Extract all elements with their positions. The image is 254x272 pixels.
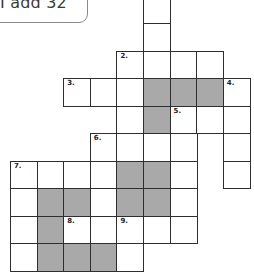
crossword-shaded-cell	[143, 78, 171, 107]
crossword-cell[interactable]	[170, 161, 198, 190]
clue-number: 4.	[227, 80, 235, 87]
crossword-cell[interactable]	[196, 106, 224, 135]
crossword-shaded-cell	[116, 161, 144, 190]
clue-number: 2.	[120, 53, 128, 60]
crossword-cell[interactable]	[170, 216, 198, 245]
crossword-cell[interactable]: 9.	[116, 216, 144, 245]
crossword-cell[interactable]	[116, 133, 144, 162]
crossword-cell[interactable]	[170, 133, 198, 162]
crossword-shaded-cell	[63, 188, 91, 217]
crossword-cell[interactable]	[63, 161, 91, 190]
crossword-cell[interactable]: 5.	[170, 106, 198, 135]
crossword-shaded-cell	[63, 243, 91, 272]
crossword-shaded-cell	[37, 188, 65, 217]
crossword-cell[interactable]: 3.	[63, 78, 91, 107]
crossword-cell[interactable]: 2.	[116, 51, 144, 80]
crossword-shaded-cell	[170, 78, 198, 107]
crossword-cell[interactable]	[170, 188, 198, 217]
crossword-shaded-cell	[143, 188, 171, 217]
crossword-cell[interactable]	[116, 243, 144, 272]
clue-number: 6.	[94, 135, 102, 142]
crossword-cell[interactable]: 4.	[223, 78, 251, 107]
crossword-cell[interactable]	[143, 0, 171, 24]
crossword-cell[interactable]	[116, 78, 144, 107]
crossword-cell[interactable]	[170, 51, 198, 80]
crossword-cell[interactable]	[223, 106, 251, 135]
crossword-shaded-cell	[143, 161, 171, 190]
crossword-cell[interactable]	[196, 51, 224, 80]
clue-number: 7.	[14, 163, 22, 170]
crossword-cell[interactable]	[10, 243, 38, 272]
crossword-cell[interactable]	[10, 216, 38, 245]
clue-number: 5.	[174, 108, 182, 115]
crossword-shaded-cell	[37, 243, 65, 272]
crossword-shaded-cell	[37, 216, 65, 245]
crossword-shaded-cell	[143, 106, 171, 135]
crossword-cell[interactable]	[143, 133, 171, 162]
clue-number: 9.	[120, 218, 128, 225]
crossword-shaded-cell	[196, 78, 224, 107]
crossword-shaded-cell	[90, 243, 118, 272]
crossword-cell[interactable]	[90, 216, 118, 245]
clue-number: 3.	[67, 80, 75, 87]
crossword-cell[interactable]	[116, 106, 144, 135]
crossword-cell[interactable]	[37, 161, 65, 190]
crossword-cell[interactable]	[223, 133, 251, 162]
crossword-cell[interactable]	[223, 161, 251, 190]
crossword-cell[interactable]	[10, 188, 38, 217]
crossword-cell[interactable]	[90, 161, 118, 190]
crossword-cell[interactable]	[90, 78, 118, 107]
crossword-shaded-cell	[116, 188, 144, 217]
crossword-cell[interactable]: 8.	[63, 216, 91, 245]
crossword-cell[interactable]	[143, 23, 171, 52]
crossword-cell[interactable]	[90, 188, 118, 217]
crossword-cell[interactable]	[143, 51, 171, 80]
crossword-cell[interactable]: 7.	[10, 161, 38, 190]
crossword-cell[interactable]	[143, 216, 171, 245]
crossword-cell[interactable]: 6.	[90, 133, 118, 162]
clue-number: 8.	[67, 218, 75, 225]
